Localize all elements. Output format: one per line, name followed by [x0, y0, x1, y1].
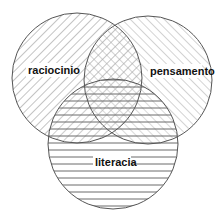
venn-diagram: raciocinio pensamento literacia [0, 0, 224, 222]
label-pensamento: pensamento [150, 65, 215, 77]
label-raciocinio: raciocinio [28, 64, 80, 76]
set-literacia [48, 79, 178, 209]
label-literacia: literacia [95, 156, 137, 168]
